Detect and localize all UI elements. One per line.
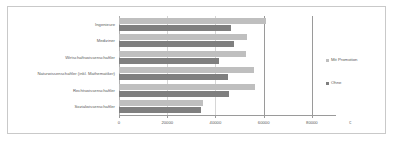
legend-swatch-icon: [326, 59, 329, 62]
bar-ohne[interactable]: [119, 41, 234, 47]
bar-row: [119, 16, 336, 33]
category-label: Ingenieure: [12, 22, 115, 27]
category-axis-labels: Ingenieure Mediziner Wirtschaftswissensc…: [12, 16, 117, 115]
bar-ohne[interactable]: [119, 58, 219, 64]
category-label: Mediziner: [12, 38, 115, 43]
category-label: Sozialwissenschaftler: [12, 104, 115, 109]
category-label: Rechtswissenschaftler: [12, 88, 115, 93]
legend-label: Mit Promotion: [331, 57, 358, 63]
x-tick-mark: [167, 115, 168, 118]
bar-mit-promotion[interactable]: [119, 51, 246, 57]
bar-ohne[interactable]: [119, 74, 228, 80]
x-tick-mark: [264, 115, 265, 118]
bar-mit-promotion[interactable]: [119, 84, 255, 90]
bar-mit-promotion[interactable]: [119, 67, 254, 73]
x-tick-label: 40000: [198, 120, 232, 125]
x-tick-mark: [119, 115, 120, 118]
x-tick-label: 60000: [247, 120, 281, 125]
x-tick-label: 20000: [150, 120, 184, 125]
chart-frame: Ingenieure Mediziner Wirtschaftswissensc…: [7, 6, 386, 134]
x-tick-mark: [312, 115, 313, 118]
bar-row: [119, 82, 336, 99]
bar-mit-promotion[interactable]: [119, 18, 266, 24]
legend: Mit Promotion Ohne: [326, 57, 386, 103]
legend-entry-mit-promotion[interactable]: Mit Promotion: [326, 57, 386, 66]
bar-ohne[interactable]: [119, 25, 231, 31]
x-tick-label: 80000: [295, 120, 329, 125]
bar-row: [119, 99, 336, 116]
bar-mit-promotion[interactable]: [119, 100, 203, 106]
legend-entry-ohne[interactable]: Ohne: [326, 80, 386, 89]
category-label: Naturwissenschaftler (inkl. Mathematiker…: [12, 71, 115, 76]
legend-swatch-icon: [326, 82, 329, 85]
bar-ohne[interactable]: [119, 107, 201, 113]
x-axis-unit-label: €: [349, 120, 351, 125]
x-tick-mark: [215, 115, 216, 118]
bar-ohne[interactable]: [119, 91, 229, 97]
x-axis-line: [119, 115, 336, 116]
bar-row: [119, 66, 336, 83]
plot-area: [119, 16, 336, 115]
bar-row: [119, 33, 336, 50]
x-tick-label: 0: [102, 120, 136, 125]
bar-rows: [119, 16, 336, 115]
bar-mit-promotion[interactable]: [119, 34, 247, 40]
legend-label: Ohne: [331, 80, 342, 86]
category-label: Wirtschaftswissenschaftler: [12, 55, 115, 60]
bar-row: [119, 49, 336, 66]
